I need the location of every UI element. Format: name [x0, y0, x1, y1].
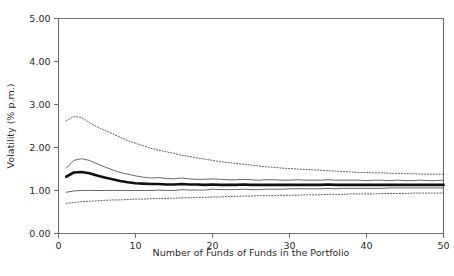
x-axis-title: Number of Funds of Funds in the Portfoli…: [153, 247, 350, 258]
y-tick-label: 1.00: [29, 185, 50, 196]
x-tick-label: 0: [55, 240, 61, 251]
y-axis-title: Volatility (% p.m.): [5, 84, 16, 169]
y-tick-label: 0.00: [29, 228, 50, 239]
y-tick-label: 2.00: [29, 142, 50, 153]
volatility-line-chart: 01020304050 0.001.002.003.004.005.00 Num…: [0, 0, 454, 276]
chart-background: [0, 0, 454, 276]
x-tick-label: 50: [437, 240, 449, 251]
y-tick-label: 5.00: [29, 13, 50, 24]
x-tick-label: 40: [360, 240, 372, 251]
chart-figure: 01020304050 0.001.002.003.004.005.00 Num…: [0, 0, 454, 276]
y-tick-label: 3.00: [29, 99, 50, 110]
x-tick-label: 10: [129, 240, 141, 251]
y-tick-label: 4.00: [29, 56, 50, 67]
